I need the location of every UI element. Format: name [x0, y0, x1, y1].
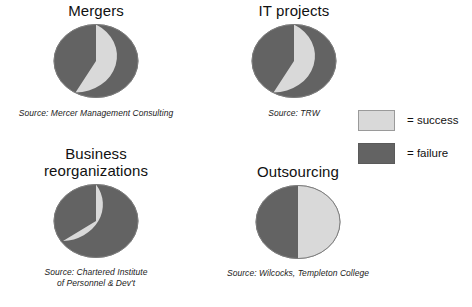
chart-source-mergers: Source: Mercer Management Consulting — [2, 108, 190, 119]
chart-title-it-projects: IT projects — [205, 2, 383, 19]
chart-title-business-reorganizations: Business reorganizations — [2, 145, 190, 179]
pie-chart-it-projects — [205, 23, 383, 99]
chart-panel-mergers: Mergers Source: Mercer Management Consul… — [2, 2, 190, 119]
chart-source-outsourcing: Source: Wilcocks, Templeton College — [202, 268, 394, 279]
chart-source-it-projects: Source: TRW — [205, 108, 383, 119]
chart-title-mergers: Mergers — [2, 2, 190, 19]
legend-label-failure: = failure — [407, 147, 448, 159]
pie-svg-mergers — [53, 23, 139, 99]
failure-swatch-icon — [358, 143, 395, 164]
success-swatch-icon — [358, 110, 395, 131]
chart-legend: = success = failure — [358, 108, 470, 174]
chart-panel-business-reorganizations: Business reorganizations Source: Charter… — [2, 145, 190, 288]
chart-panel-outsourcing: Outsourcing Source: Wilcocks, Templeton … — [202, 163, 394, 279]
pie-svg-outsourcing — [255, 184, 341, 260]
pie-chart-figure: Mergers Source: Mercer Management Consul… — [0, 0, 472, 307]
legend-label-success: = success — [407, 114, 458, 126]
chart-source-business-reorganizations: Source: Chartered Institute of Personnel… — [2, 267, 190, 288]
pie-svg-business-reorganizations — [53, 183, 139, 259]
chart-panel-it-projects: IT projects Source: TRW — [205, 2, 383, 119]
pie-chart-business-reorganizations — [2, 183, 190, 259]
pie-chart-mergers — [2, 23, 190, 99]
pie-chart-outsourcing — [202, 184, 394, 260]
pie-svg-it-projects — [251, 23, 337, 99]
legend-item-failure: = failure — [358, 141, 470, 165]
legend-item-success: = success — [358, 108, 470, 132]
